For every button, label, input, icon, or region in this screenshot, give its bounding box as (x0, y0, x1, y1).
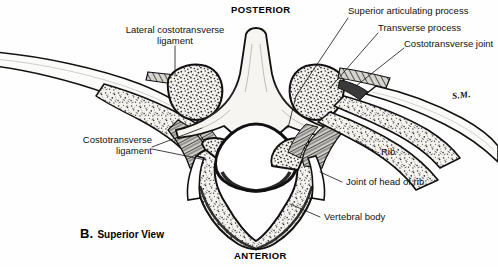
label-joint-of-head-of-rib: Joint of head of rib (346, 176, 424, 187)
left-transverse-process (168, 64, 223, 120)
label-lateral-costotransverse-ligament: Lateral costotransverse ligament (105, 24, 245, 46)
label-rib: Rib (381, 146, 395, 157)
orientation-anterior: ANTERIOR (234, 250, 287, 261)
label-costotransverse-ligament: Costotransverse ligament (14, 134, 152, 156)
label-line-2: ligament (14, 145, 152, 156)
label-line-1: Costotransverse (14, 134, 152, 145)
panel-caption: B. Superior View (80, 224, 164, 242)
right-transverse-process (290, 64, 345, 120)
anatomical-figure: POSTERIOR ANTERIOR Lateral costotransver… (0, 0, 498, 267)
label-costotransverse-joint: Costotransverse joint (404, 38, 493, 49)
panel-letter: B. (80, 226, 93, 241)
panel-caption-text: Superior View (97, 229, 164, 240)
label-line-2: ligament (105, 35, 245, 46)
label-transverse-process: Transverse process (378, 22, 461, 33)
label-line-1: Lateral costotransverse (105, 24, 245, 35)
label-vertebral-body: Vertebral body (324, 211, 385, 222)
label-superior-articulating-process: Superior articulating process (348, 5, 468, 16)
orientation-posterior: POSTERIOR (231, 4, 291, 15)
